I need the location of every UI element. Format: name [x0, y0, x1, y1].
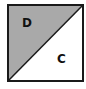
label-c: C: [57, 52, 66, 66]
diagram-canvas: D C: [0, 0, 86, 89]
label-d: D: [22, 16, 32, 30]
